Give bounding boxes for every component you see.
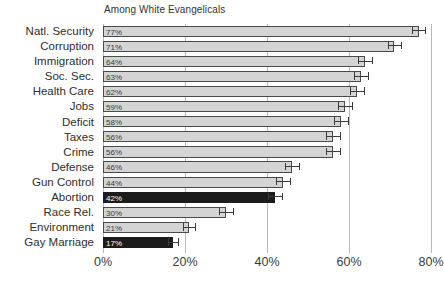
error-bar-cap <box>412 27 413 35</box>
value-tick-label: 0% <box>94 255 112 269</box>
value-tick-label: 60% <box>336 255 361 269</box>
error-bar <box>350 91 364 92</box>
bar: 58% <box>103 116 341 127</box>
category-label: Defense <box>0 160 99 175</box>
bar: 17% <box>103 237 173 248</box>
category-label: Crime <box>0 145 99 160</box>
bar: 42% <box>103 192 275 203</box>
error-bar <box>285 166 299 167</box>
bar-row: 56% <box>103 145 431 160</box>
error-bar-cap <box>372 57 373 65</box>
bar-row: 62% <box>103 84 431 99</box>
bar: 30% <box>103 207 226 218</box>
category-label: Taxes <box>0 130 99 145</box>
bar-value-label: 56% <box>106 132 122 143</box>
bar-value-label: 58% <box>106 117 122 128</box>
error-bar-cap <box>178 238 179 246</box>
error-bar-cap <box>388 42 389 50</box>
error-bar-cap <box>425 27 426 35</box>
bar-row: 71% <box>103 39 431 54</box>
gridline <box>431 24 432 253</box>
error-bar-cap <box>352 102 353 110</box>
error-bar-cap <box>276 178 277 186</box>
bar: 77% <box>103 26 419 37</box>
bar-row: 58% <box>103 115 431 130</box>
error-bar <box>354 76 368 77</box>
bar-value-label: 63% <box>106 72 122 83</box>
error-bar-cap <box>350 87 351 95</box>
error-bar <box>412 30 425 31</box>
error-bar-cap <box>268 193 269 201</box>
error-bar-cap <box>326 132 327 140</box>
bar-value-label: 42% <box>106 193 122 204</box>
error-bar <box>358 61 372 62</box>
value-tick-label: 80% <box>418 255 443 269</box>
bar-row: 59% <box>103 99 431 114</box>
bar-value-label: 21% <box>106 223 122 234</box>
category-label: Health Care <box>0 84 99 99</box>
bar-value-label: 77% <box>106 27 122 38</box>
value-tick-label: 40% <box>254 255 279 269</box>
bar: 46% <box>103 161 292 172</box>
bar-value-label: 71% <box>106 42 122 53</box>
error-bar-cap <box>338 102 339 110</box>
bar-value-label: 64% <box>106 57 122 68</box>
value-axis: 0%20%40%60%80% <box>103 255 431 277</box>
bar-value-label: 56% <box>106 147 122 158</box>
error-bar <box>388 45 401 46</box>
bar-row: 56% <box>103 130 431 145</box>
error-bar-cap <box>233 208 234 216</box>
error-bar-cap <box>168 238 169 246</box>
category-label: Gay Marriage <box>0 235 99 250</box>
bar: 56% <box>103 146 333 157</box>
bar-series: 77%71%64%63%62%59%58%56%56%46%44%42%30%2… <box>103 24 431 253</box>
bar-value-label: 30% <box>106 208 122 219</box>
error-bar <box>183 227 194 228</box>
error-bar <box>334 121 348 122</box>
error-bar <box>338 106 352 107</box>
error-bar-cap <box>334 117 335 125</box>
bar: 59% <box>103 101 345 112</box>
category-label: Natl. Security <box>0 24 99 39</box>
bar-row: 46% <box>103 160 431 175</box>
error-bar <box>168 242 178 243</box>
category-label: Corruption <box>0 39 99 54</box>
bar: 71% <box>103 41 394 52</box>
bar-row: 63% <box>103 69 431 84</box>
bar-row: 77% <box>103 24 431 39</box>
category-label: Soc. Sec. <box>0 69 99 84</box>
error-bar <box>276 181 290 182</box>
error-bar-cap <box>219 208 220 216</box>
bar: 62% <box>103 86 357 97</box>
bar-value-label: 44% <box>106 178 122 189</box>
error-bar-cap <box>299 163 300 171</box>
category-label: Immigration <box>0 54 99 69</box>
category-label: Gun Control <box>0 175 99 190</box>
error-bar-cap <box>354 72 355 80</box>
error-bar-cap <box>368 72 369 80</box>
error-bar-cap <box>183 223 184 231</box>
error-bar-cap <box>401 42 402 50</box>
error-bar-cap <box>364 87 365 95</box>
category-label: Deficit <box>0 115 99 130</box>
bar-value-label: 46% <box>106 162 122 173</box>
chart-title: Among White Evangelicals <box>104 4 225 15</box>
error-bar-cap <box>282 193 283 201</box>
error-bar-cap <box>285 163 286 171</box>
bar-row: 44% <box>103 175 431 190</box>
category-label: Race Rel. <box>0 205 99 220</box>
category-label: Environment <box>0 220 99 235</box>
category-axis: Natl. SecurityCorruptionImmigrationSoc. … <box>0 24 99 250</box>
error-bar-cap <box>340 148 341 156</box>
category-label: Abortion <box>0 190 99 205</box>
bar-value-label: 17% <box>106 238 122 249</box>
error-bar <box>219 212 232 213</box>
error-bar-cap <box>326 148 327 156</box>
error-bar <box>326 151 340 152</box>
bar: 21% <box>103 222 189 233</box>
bar-row: 64% <box>103 54 431 69</box>
error-bar <box>326 136 340 137</box>
error-bar-cap <box>340 132 341 140</box>
bar-row: 17% <box>103 235 431 250</box>
